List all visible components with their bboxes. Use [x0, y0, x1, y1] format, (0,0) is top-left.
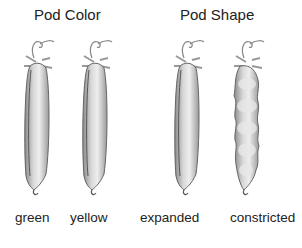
label-constricted: constricted: [230, 210, 295, 225]
label-expanded: expanded: [140, 210, 199, 225]
label-yellow: yellow: [70, 210, 108, 225]
label-green: green: [15, 210, 50, 225]
pea-pod-constricted-illustration: [222, 36, 272, 196]
heading-pod-shape: Pod Shape: [180, 6, 254, 23]
pea-pod-green-illustration: [12, 36, 62, 196]
pea-pod-expanded-illustration: [162, 36, 212, 196]
pea-pod-yellow-illustration: [70, 36, 120, 196]
heading-pod-color: Pod Color: [34, 6, 101, 23]
